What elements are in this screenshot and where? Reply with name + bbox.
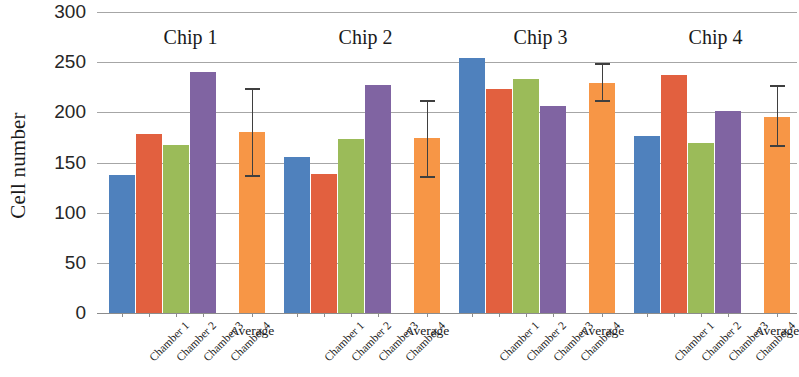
tick-mark	[674, 313, 675, 317]
tick-mark	[324, 313, 325, 317]
bars-layer	[97, 12, 797, 313]
bar	[190, 72, 216, 313]
bar	[311, 174, 337, 313]
tick-mark	[122, 313, 123, 317]
y-tick-label: 250	[54, 51, 86, 73]
tick-mark	[378, 313, 379, 317]
error-bar-cap-top	[595, 63, 610, 65]
bar	[136, 134, 162, 313]
tick-mark	[176, 313, 177, 317]
bar	[365, 85, 391, 313]
tick-mark	[203, 313, 204, 317]
y-axis-title-text: Cell number	[6, 112, 31, 219]
y-tick-label: 300	[54, 1, 86, 23]
x-tick-label-average: Average	[405, 323, 450, 339]
tick-mark	[553, 313, 554, 317]
bar	[513, 79, 539, 313]
error-bar-cap-bottom	[245, 175, 260, 177]
bar	[661, 75, 687, 313]
bar	[284, 157, 310, 313]
tick-mark	[647, 313, 648, 317]
tick-mark	[351, 313, 352, 317]
x-tick-label-average: Average	[580, 323, 625, 339]
tick-mark	[526, 313, 527, 317]
bar	[459, 58, 485, 313]
y-tick-label: 200	[54, 101, 86, 123]
bar	[540, 106, 566, 313]
tick-mark	[701, 313, 702, 317]
tick-mark	[777, 313, 778, 317]
tick-mark	[427, 313, 428, 317]
error-bar-cap-top	[770, 85, 785, 87]
average-bar	[589, 83, 615, 313]
bar	[715, 111, 741, 313]
tick-mark	[602, 313, 603, 317]
tick-mark	[252, 313, 253, 317]
x-tick-label-average: Average	[230, 323, 275, 339]
error-bar-cap-bottom	[595, 100, 610, 102]
y-tick-label: 100	[54, 202, 86, 224]
tick-mark	[149, 313, 150, 317]
error-bar-line	[427, 100, 428, 175]
bar	[109, 175, 135, 313]
y-axis-tick-labels: 300250200150100500	[36, 0, 92, 330]
error-bar-cap-top	[245, 88, 260, 90]
x-axis-tick-labels: Chamber 1Chamber 2Chamber 3Chamber 4Aver…	[0, 313, 797, 377]
bar	[634, 136, 660, 313]
bar	[163, 145, 189, 313]
x-tick-label-average: Average	[755, 323, 799, 339]
y-tick-label: 50	[65, 252, 86, 274]
error-bar-line	[602, 63, 603, 100]
y-axis-title: Cell number	[0, 0, 36, 330]
error-bar-line	[252, 88, 253, 174]
group-title: Chip 4	[689, 26, 743, 49]
error-bar-cap-bottom	[420, 176, 435, 178]
y-tick-label: 150	[54, 152, 86, 174]
tick-mark	[499, 313, 500, 317]
bar	[688, 143, 714, 313]
group-title: Chip 1	[164, 26, 218, 49]
tick-mark	[297, 313, 298, 317]
error-bar-cap-top	[420, 100, 435, 102]
error-bar-line	[777, 85, 778, 145]
group-title: Chip 2	[339, 26, 393, 49]
tick-mark	[728, 313, 729, 317]
bar	[486, 89, 512, 313]
error-bar-cap-bottom	[770, 145, 785, 147]
tick-mark	[472, 313, 473, 317]
group-title: Chip 3	[514, 26, 568, 49]
bar	[338, 139, 364, 313]
